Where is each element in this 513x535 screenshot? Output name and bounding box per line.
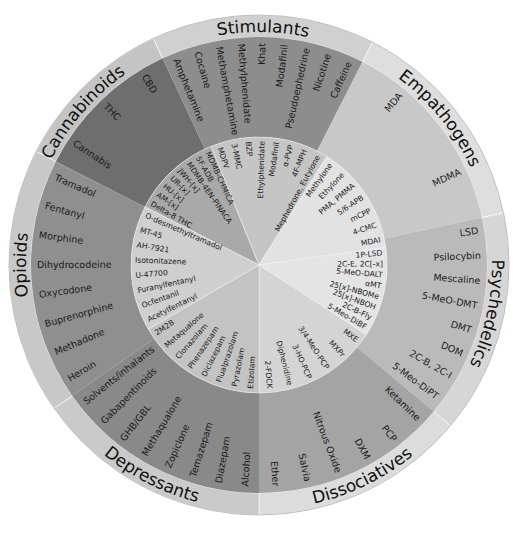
category-label-opioids: Opioids	[10, 231, 32, 298]
substance-label[interactable]: Psilocybin	[433, 250, 481, 263]
research-chemical-label[interactable]: Isotonitazene	[135, 256, 187, 267]
substance-label[interactable]: Ether	[269, 461, 282, 487]
substance-label[interactable]: Alcohol	[239, 452, 252, 487]
substance-label[interactable]: Khat	[256, 43, 267, 65]
drug-wheel-diagram: CannabinoidsCannabisTHCCBDDelta-8 THCAM-…	[0, 0, 513, 535]
category-label-text: Opioids	[10, 231, 32, 298]
research-chemical-label[interactable]: Ethylphenidate	[256, 141, 267, 199]
substance-label[interactable]: Dihydrocodeine	[37, 259, 112, 270]
research-chemical-label[interactable]: BZP	[244, 141, 254, 157]
